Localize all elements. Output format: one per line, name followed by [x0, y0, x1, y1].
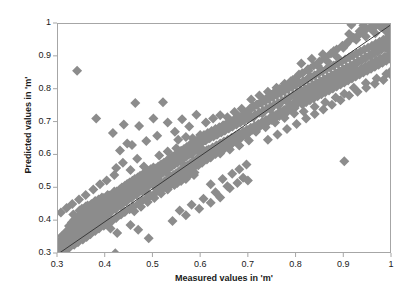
y-tick-label: 0.4	[17, 214, 51, 224]
x-tick-label: 0.8	[279, 259, 313, 269]
y-tick-label: 0.7	[17, 116, 51, 126]
plot-area	[57, 23, 391, 253]
y-tick-label: 0.6	[17, 148, 51, 158]
x-axis-title: Measured values in 'm'	[57, 273, 391, 283]
y-tick-label: 0.5	[17, 181, 51, 191]
x-tick-label: 0.3	[40, 259, 74, 269]
scatter-markers	[58, 24, 391, 253]
x-tick-label: 0.6	[183, 259, 217, 269]
scatter-chart-figure: Predicted values in 'm' Measured values …	[0, 0, 412, 294]
scatter-points-layer	[58, 24, 391, 253]
y-tick-label: 0.3	[17, 247, 51, 257]
x-tick-label: 0.4	[88, 259, 122, 269]
x-tick-label: 1	[374, 259, 408, 269]
y-tick-label: 0.8	[17, 83, 51, 93]
x-tick-label: 0.9	[326, 259, 360, 269]
y-tick-label: 1	[17, 17, 51, 27]
x-tick-label: 0.5	[135, 259, 169, 269]
x-tick-label: 0.7	[231, 259, 265, 269]
y-tick-label: 0.9	[17, 50, 51, 60]
